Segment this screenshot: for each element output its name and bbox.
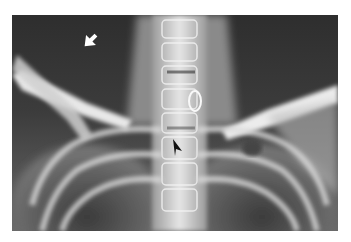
spine [152,15,207,231]
xray-image [12,15,338,231]
apical-density [242,140,262,156]
